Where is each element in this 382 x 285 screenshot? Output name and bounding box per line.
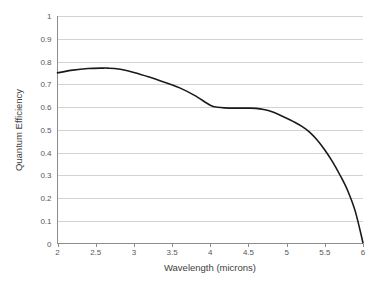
x-axis-tick-label: 4.5 <box>243 248 255 257</box>
y-axis-tick-label: 0.6 <box>40 103 52 112</box>
y-axis-tick-label: 0.8 <box>40 58 52 67</box>
x-axis-tick-label: 3.5 <box>167 248 179 257</box>
y-axis-tick-label: 0.2 <box>40 194 52 203</box>
y-axis-tick-label: 0 <box>47 240 52 249</box>
x-axis-tick-label: 2 <box>55 248 60 257</box>
x-axis-title: Wavelength (microns) <box>164 262 256 273</box>
y-axis-tick-label: 1 <box>47 12 52 21</box>
x-axis-tick-label: 4 <box>208 248 213 257</box>
y-axis-tick-label: 0.9 <box>40 35 52 44</box>
chart-container: 00.10.20.30.40.50.60.70.80.91 22.533.544… <box>0 0 382 285</box>
x-axis-tick-label: 3 <box>132 248 137 257</box>
y-axis-tick-label: 0.3 <box>40 171 52 180</box>
y-axis-tick-label: 0.5 <box>40 126 52 135</box>
quantum-efficiency-line-chart: 00.10.20.30.40.50.60.70.80.91 22.533.544… <box>0 0 382 285</box>
y-axis-tick-label: 0.4 <box>40 149 52 158</box>
x-axis-tick-label: 6 <box>361 248 366 257</box>
y-axis-tick-label: 0.7 <box>40 80 52 89</box>
y-axis-tick-label: 0.1 <box>40 217 52 226</box>
x-axis-tick-label: 2.5 <box>90 248 102 257</box>
x-axis-tick-label: 5.5 <box>319 248 331 257</box>
y-axis-title: Quantum Efficiency <box>13 89 24 171</box>
x-axis-tick-label: 5 <box>284 248 289 257</box>
